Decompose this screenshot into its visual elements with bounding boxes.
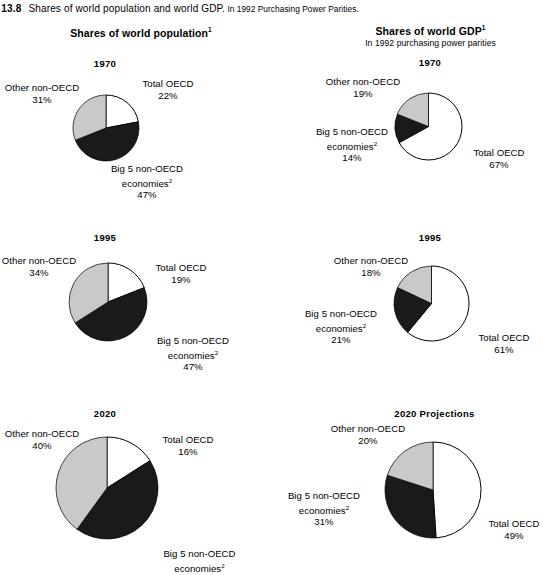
label-name: Other non-OECD xyxy=(334,255,408,266)
label-value: 40% xyxy=(32,440,51,451)
panel-header-population: Shares of world population1 xyxy=(16,26,266,39)
chart-title-gdp-2020: 2020 Projections xyxy=(372,408,497,419)
label-name: Total OECD xyxy=(155,262,206,273)
label-name: Total OECD xyxy=(162,434,213,445)
label-value: 14% xyxy=(342,152,361,163)
label-total-oecd-gdp-1995: Total OECD 61% xyxy=(468,332,540,355)
chart-title-population-1970: 1970 xyxy=(60,58,150,69)
label-name: Big 5 non-OECD xyxy=(163,548,235,559)
pie-gdp-2020 xyxy=(384,441,482,539)
label-name: Big 5 non-OECD xyxy=(305,308,377,319)
label-other-non-oecd-gdp-1995: Other non-OECD 18% xyxy=(328,255,414,278)
label-value: 31% xyxy=(32,94,51,105)
label-footnote: 2 xyxy=(215,349,219,356)
label-value: 19% xyxy=(171,274,190,285)
pie-slices xyxy=(385,442,481,538)
label-big5-non-oecd-population-1970: Big 5 non-OECD economies2 47% xyxy=(102,163,192,201)
label-footnote: 2 xyxy=(221,562,225,569)
label-value: 34% xyxy=(29,267,48,278)
label-total-oecd-population-1970: Total OECD 22% xyxy=(137,78,199,101)
pie-slices xyxy=(395,93,462,160)
label-name: Other non-OECD xyxy=(2,255,76,266)
label-value: 21% xyxy=(331,334,350,345)
label-footnote: 2 xyxy=(346,504,350,511)
label-value: 20% xyxy=(358,435,377,446)
label-total-oecd-gdp-2020: Total OECD 49% xyxy=(478,518,543,541)
label-value: 19% xyxy=(353,88,372,99)
label-name: Total OECD xyxy=(488,518,539,529)
label-name: Total OECD xyxy=(473,147,524,158)
label-other-non-oecd-population-2020: Other non-OECD 40% xyxy=(0,428,87,451)
panel-header-gdp-footnote: 1 xyxy=(482,24,486,31)
label-name2: economies xyxy=(299,505,346,516)
label-name2: economies xyxy=(327,141,374,152)
label-name: Other non-OECD xyxy=(331,423,405,434)
chart-title-gdp-1995: 1995 xyxy=(385,232,475,243)
label-name: Other non-OECD xyxy=(5,82,79,93)
label-big5-non-oecd-population-1995: Big 5 non-OECD economies2 47% xyxy=(148,335,238,373)
label-value: 31% xyxy=(314,516,333,527)
label-name: Big 5 non-OECD xyxy=(111,163,183,174)
label-name: Other non-OECD xyxy=(5,428,79,439)
chart-title-population-1995: 1995 xyxy=(60,232,150,243)
pie-gdp-1970 xyxy=(394,92,463,161)
label-name: Total OECD xyxy=(478,332,529,343)
label-name: Other non-OECD xyxy=(326,76,400,87)
label-footnote: 2 xyxy=(374,140,378,147)
figure-caption-sub: In 1992 Purchasing Power Parities. xyxy=(225,4,359,14)
label-total-oecd-population-1995: Total OECD 19% xyxy=(146,262,216,285)
panel-header-gdp: Shares of world GDP1 xyxy=(318,24,543,37)
label-name2: economies xyxy=(316,323,363,334)
label-big5-non-oecd-gdp-1970: Big 5 non-OECD economies2 14% xyxy=(308,126,396,164)
label-total-oecd-gdp-1970: Total OECD 67% xyxy=(463,147,535,170)
panel-subheader-gdp: In 1992 purchasing power parities xyxy=(318,38,543,48)
panel-header-population-footnote: 1 xyxy=(208,26,212,33)
pie-population-1970 xyxy=(72,94,140,162)
label-other-non-oecd-population-1995: Other non-OECD 34% xyxy=(0,255,81,278)
slice-total-oecd xyxy=(433,442,481,538)
label-name: Big 5 non-OECD xyxy=(316,126,388,137)
label-value: 47% xyxy=(183,361,202,372)
label-big5-non-oecd-gdp-2020: Big 5 non-OECD economies2 31% xyxy=(278,490,370,528)
label-big5-non-oecd-gdp-1995: Big 5 non-OECD economies2 21% xyxy=(296,308,386,346)
pie-population-2020 xyxy=(55,436,159,540)
label-value: 61% xyxy=(494,344,513,355)
label-value: 18% xyxy=(361,267,380,278)
label-name2: economies xyxy=(122,178,169,189)
label-other-non-oecd-population-1970: Other non-OECD 31% xyxy=(2,82,82,105)
label-name2: economies xyxy=(174,563,221,574)
figure-caption-main: Shares of world population and world GDP… xyxy=(28,3,225,14)
panel-header-gdp-text: Shares of world GDP xyxy=(375,25,481,37)
label-value: 49% xyxy=(504,530,523,541)
label-footnote: 2 xyxy=(169,177,173,184)
label-value: 47% xyxy=(137,189,156,200)
figure-number: ure 13.8 xyxy=(0,3,21,14)
label-name: Big 5 non-OECD xyxy=(288,490,360,501)
label-value: 22% xyxy=(158,90,177,101)
label-name2: economies xyxy=(168,350,215,361)
label-big5-non-oecd-population-2020: Big 5 non-OECD economies2 xyxy=(152,548,247,574)
label-other-non-oecd-gdp-2020: Other non-OECD 20% xyxy=(322,423,414,446)
chart-title-population-2020: 2020 xyxy=(60,408,150,419)
panel-header-population-text: Shares of world population xyxy=(70,27,208,39)
chart-title-gdp-1970: 1970 xyxy=(385,57,475,68)
label-footnote: 2 xyxy=(363,322,367,329)
pie-slices xyxy=(73,95,139,161)
figure-caption: ure 13.8Shares of world population and w… xyxy=(0,3,542,15)
label-value: 67% xyxy=(489,159,508,170)
pie-slices xyxy=(56,437,158,539)
label-total-oecd-population-2020: Total OECD 16% xyxy=(152,434,224,457)
label-value: 16% xyxy=(178,446,197,457)
label-name: Total OECD xyxy=(142,78,193,89)
label-name: Big 5 non-OECD xyxy=(157,335,229,346)
label-other-non-oecd-gdp-1970: Other non-OECD 19% xyxy=(318,76,408,99)
